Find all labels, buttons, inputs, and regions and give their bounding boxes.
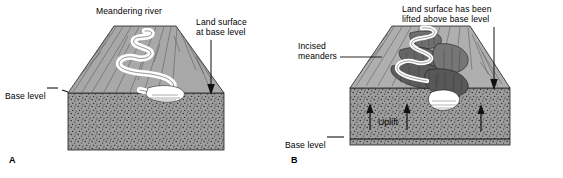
uplift-label-b: Uplift [378, 117, 398, 127]
figure-incised-meanders: Meandering river Land surface at base le… [0, 0, 563, 178]
panel-b-letter: B [291, 155, 298, 165]
base-level-marker-a [47, 88, 68, 92]
panel-a-letter: A [9, 155, 16, 165]
river-mouth-lake-a [146, 86, 184, 103]
panel-a-title-label: Meandering river [74, 6, 184, 16]
panel-a: Meandering river Land surface at base le… [0, 0, 282, 178]
panel-b: Land surface has been lifted above base … [282, 0, 563, 178]
land-surface-arrow-a [207, 40, 215, 95]
base-level-label-b: Base level [285, 140, 326, 150]
land-surface-label-b: Land surface has been lifted above base … [402, 4, 562, 24]
bedrock-block-a [68, 93, 224, 150]
panel-b-block-diagram [282, 0, 563, 178]
base-level-label-a: Base level [5, 91, 46, 101]
land-surface-label-a: Land surface at base level [196, 17, 280, 37]
incised-meanders-label-b: Incised meanders [298, 41, 358, 61]
